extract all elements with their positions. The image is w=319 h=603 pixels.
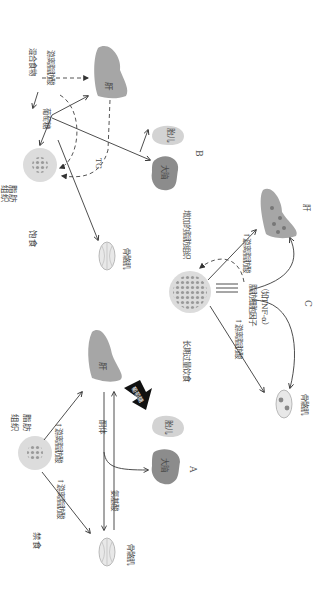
glucose-big-arrow: 葡萄糖 <box>124 380 152 410</box>
svg-text:骨骼肌: 骨骼肌 <box>122 248 132 270</box>
svg-text:骨骼肌: 骨骼肌 <box>300 394 310 416</box>
brain-a: 大脑 <box>152 449 180 484</box>
metabolism-figure: 肝 脂肪 组织 饱食 骨骼肌 胎儿 大脑 B 混合食物 游离脂肪酸 <box>0 0 319 603</box>
svg-text:胎儿: 胎儿 <box>164 420 174 435</box>
skeletal-muscle-c: 骨骼肌 <box>276 390 310 418</box>
panel-b: 肝 脂肪 组织 饱食 骨骼肌 胎儿 大脑 B 混合食物 游离脂肪酸 <box>0 46 204 270</box>
state-label-c: 长期过量饮食 <box>182 340 192 383</box>
panel-label-c: C <box>303 300 313 307</box>
fetus-b: 胎儿 <box>152 126 184 145</box>
state-label-a: 禁食 <box>32 532 42 550</box>
liver-b: 肝 <box>94 46 127 98</box>
svg-text:↑游离脂肪酸: ↑游离脂肪酸 <box>54 422 64 464</box>
svg-text:氨基酸: 氨基酸 <box>110 490 120 512</box>
adipose-tissue-b: 脂肪 组织 <box>0 148 57 203</box>
liver-a: 肝 <box>88 330 122 382</box>
fetus-a: 胎儿 <box>152 416 184 437</box>
svg-text:大脑: 大脑 <box>160 165 170 180</box>
svg-text:肝: 肝 <box>104 82 114 91</box>
svg-text:肝: 肝 <box>302 204 311 212</box>
svg-text:脂肪: 脂肪 <box>22 414 32 432</box>
panel-label-b: B <box>194 150 204 157</box>
svg-text:大脑: 大脑 <box>160 458 170 473</box>
svg-text:组织: 组织 <box>0 185 10 203</box>
svg-text:肝: 肝 <box>98 362 108 371</box>
svg-text:游离脂肪酸: 游离脂肪酸 <box>46 50 56 86</box>
svg-text:骨骼肌: 骨骼肌 <box>126 544 136 566</box>
liver-c: 肝 <box>261 189 311 238</box>
skeletal-muscle-a: 骨骼肌 <box>99 538 136 566</box>
svg-text:混合食物: 混合食物 <box>28 48 38 77</box>
panel-label-a: A <box>188 465 198 473</box>
svg-text:↑游离脂肪酸: ↑游离脂肪酸 <box>234 318 244 360</box>
brain-b: 大脑 <box>152 156 179 190</box>
svg-text:胎儿: 胎儿 <box>166 128 176 143</box>
state-label-b: 饱食 <box>28 230 38 248</box>
adipose-tissue-a: 脂肪 组织 <box>10 414 52 470</box>
svg-text:脂肪细胞因子: 脂肪细胞因子 <box>248 284 258 327</box>
svg-text:酮体: 酮体 <box>98 420 108 435</box>
svg-text:↑游离脂肪酸: ↑游离脂肪酸 <box>56 478 66 520</box>
svg-text:组织: 组织 <box>10 414 20 432</box>
svg-text:（如TNF-α）: （如TNF-α） <box>260 284 270 329</box>
svg-text:↑游离脂肪酸: ↑游离脂肪酸 <box>242 232 252 274</box>
enlarged-adipose-c: 增加的脂肪组织 <box>169 210 211 313</box>
panel-a: 肝 脂肪 组织 禁食 骨骼肌 胎儿 大脑 A 葡萄糖 ↑游离脂肪酸 ↑游离 <box>10 330 198 566</box>
svg-text:增加的脂肪组织: 增加的脂肪组织 <box>182 210 192 260</box>
skeletal-muscle-b: 骨骼肌 <box>99 242 132 270</box>
panel-c: 肝 增加的脂肪组织 长期过量饮食 骨骼肌 C ↑游离脂肪酸 ↑游离脂肪酸 脂肪细… <box>169 189 313 418</box>
